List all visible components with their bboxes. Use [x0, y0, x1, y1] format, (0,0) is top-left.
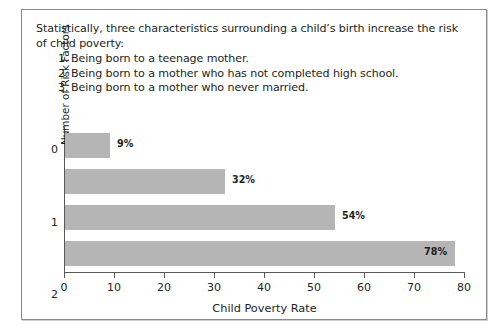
x-axis-title: Child Poverty Rate: [64, 302, 465, 315]
list-item: 2. Being born to a mother who has not co…: [36, 67, 476, 82]
list-item-label: Being born to a teenage mother.: [71, 52, 249, 65]
bar-value-label: 9%: [117, 138, 133, 149]
x-tick: [214, 273, 215, 278]
bar-value-label: 32%: [232, 174, 255, 185]
y-tick-label: 1: [38, 216, 58, 229]
x-tick-label: 70: [399, 281, 429, 294]
x-tick: [364, 273, 365, 278]
x-tick-label: 20: [149, 281, 179, 294]
x-tick-label: 40: [249, 281, 279, 294]
bar-row: 78%3: [65, 241, 455, 266]
x-tick: [414, 273, 415, 278]
x-tick-label: 80: [449, 281, 479, 294]
bar-1: [65, 169, 225, 194]
plot-area: Number of Risk Factors Child Poverty Rat…: [64, 127, 464, 272]
x-tick-label: 50: [299, 281, 329, 294]
bar-3: [65, 241, 455, 266]
intro-paragraph-line-2: of child poverty:: [36, 37, 476, 52]
list-item: 3. Being born to a mother who never marr…: [36, 81, 476, 96]
bar-row: 54%2: [65, 205, 335, 230]
bar-2: [65, 205, 335, 230]
x-tick: [164, 273, 165, 278]
intro-paragraph-line-1: Statistically, three characteristics sur…: [36, 22, 476, 37]
list-item-label: Being born to a mother who never married…: [71, 81, 308, 94]
list-item-label: Being born to a mother who has not compl…: [71, 67, 399, 80]
bar-value-label: 78%: [424, 246, 447, 257]
x-tick-label: 0: [49, 281, 79, 294]
risk-factor-list: 1. Being born to a teenage mother. 2. Be…: [36, 52, 476, 96]
x-tick-label: 60: [349, 281, 379, 294]
x-tick-label: 30: [199, 281, 229, 294]
bar-row: 32%1: [65, 169, 225, 194]
intro-text-block: Statistically, three characteristics sur…: [36, 22, 476, 96]
list-item: 1. Being born to a teenage mother.: [36, 52, 476, 67]
bar-row: 9%0: [65, 133, 110, 158]
bar-0: [65, 133, 110, 158]
figure-frame: Statistically, three characteristics sur…: [21, 9, 487, 320]
x-tick-label: 10: [99, 281, 129, 294]
bar-chart: Number of Risk Factors Child Poverty Rat…: [22, 117, 486, 320]
x-tick: [314, 273, 315, 278]
bar-value-label: 54%: [342, 210, 365, 221]
y-tick-label: 0: [38, 143, 58, 156]
x-tick: [464, 273, 465, 278]
x-tick: [264, 273, 265, 278]
y-axis-title: Number of Risk Factors: [59, 25, 71, 145]
x-tick: [64, 273, 65, 278]
x-tick: [114, 273, 115, 278]
